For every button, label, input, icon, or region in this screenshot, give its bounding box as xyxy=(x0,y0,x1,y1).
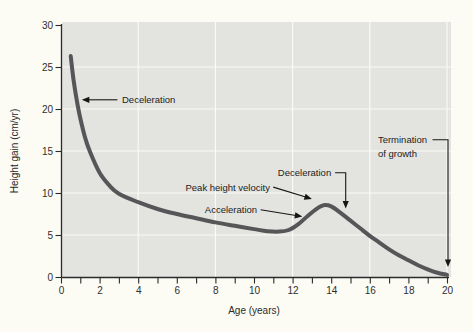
y-tick-label: 20 xyxy=(42,104,54,115)
annotation-label: Deceleration xyxy=(122,94,175,105)
x-tick-label: 14 xyxy=(326,285,338,296)
annotation-label: Peak height velocity xyxy=(186,182,271,193)
y-tick-label: 15 xyxy=(42,146,54,157)
x-tick-label: 2 xyxy=(97,285,103,296)
x-axis-title: Age (years) xyxy=(228,305,280,316)
x-tick-label: 6 xyxy=(175,285,181,296)
growth-velocity-figure: 05101520253002468101214161820 Decelerati… xyxy=(0,0,473,332)
y-tick-label: 0 xyxy=(47,272,53,283)
annotation-label: Termination xyxy=(378,134,427,145)
x-tick-label: 0 xyxy=(59,285,65,296)
x-tick-label: 12 xyxy=(288,285,300,296)
y-axis-title: Height gain (cm/yr) xyxy=(9,109,20,193)
x-tick-label: 18 xyxy=(403,285,415,296)
annotation-label: of growth xyxy=(378,148,417,159)
annotation-label: Acceleration xyxy=(205,204,257,215)
x-tick-label: 10 xyxy=(249,285,261,296)
y-tick-label: 30 xyxy=(42,20,54,31)
x-tick-label: 8 xyxy=(213,285,219,296)
annotation-label: Deceleration xyxy=(278,167,331,178)
x-tick-label: 16 xyxy=(365,285,377,296)
x-tick-label: 20 xyxy=(442,285,454,296)
x-tick-label: 4 xyxy=(136,285,142,296)
y-tick-label: 10 xyxy=(42,188,54,199)
growth-velocity-chart: 05101520253002468101214161820 Decelerati… xyxy=(0,0,473,332)
y-tick-label: 25 xyxy=(42,62,54,73)
y-tick-label: 5 xyxy=(47,230,53,241)
